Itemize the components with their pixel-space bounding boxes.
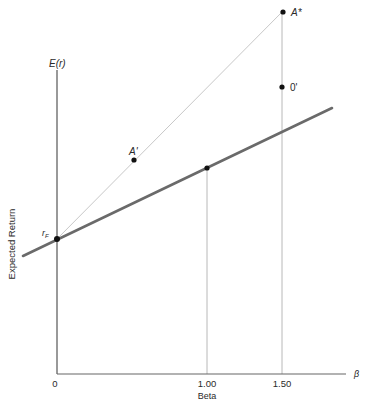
x-axis-symbol: β <box>353 369 359 379</box>
rf-point <box>54 236 60 242</box>
rf-label: rF <box>42 228 49 239</box>
a-prime-point <box>131 157 136 162</box>
security-market-line <box>23 108 332 256</box>
sml-chart: E(r) Expected Return rF A' A* 0' 0 1.00 … <box>0 0 369 403</box>
o-prime-point <box>279 84 284 89</box>
rf-to-a-star-line <box>57 12 282 239</box>
a-star-point <box>280 9 285 14</box>
tick-label-1-00: 1.00 <box>198 378 217 389</box>
tick-label-1-50: 1.50 <box>273 378 292 389</box>
o-prime-label: 0' <box>290 82 298 93</box>
a-prime-label: A' <box>128 146 139 157</box>
y-axis-side-label: Expected Return <box>6 209 17 280</box>
tick-label-0: 0 <box>52 378 57 389</box>
a-star-label: A* <box>290 7 303 18</box>
y-axis-symbol: E(r) <box>49 58 66 69</box>
market-point <box>204 165 209 170</box>
x-axis-title: Beta <box>198 391 217 401</box>
